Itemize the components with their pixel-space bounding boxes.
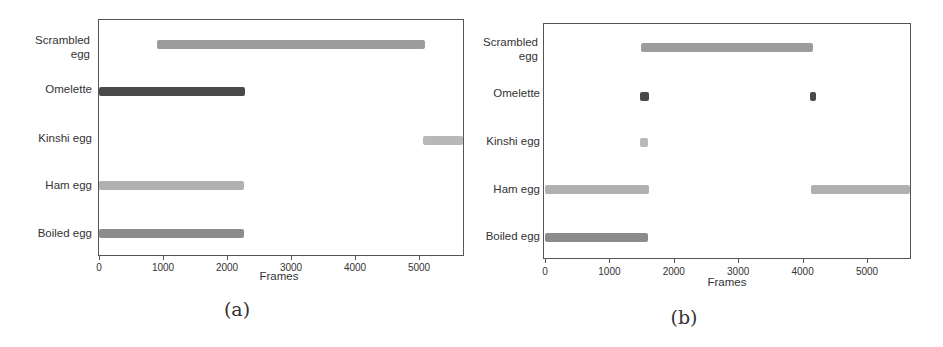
plot-area-b <box>543 23 911 259</box>
bar-ham-egg <box>545 185 649 194</box>
bar-scrambled-egg <box>641 43 813 52</box>
x-tick-label: 4000 <box>791 266 813 277</box>
x-tick <box>867 259 868 263</box>
x-tick <box>609 259 610 263</box>
bar-kinshi-egg <box>640 138 648 147</box>
bar-omelette <box>640 92 648 101</box>
ylabel-scrambled-egg: Scrambledegg <box>483 35 538 63</box>
x-tick <box>545 259 546 263</box>
x-tick <box>674 259 675 263</box>
x-tick-label: 2000 <box>663 266 685 277</box>
ylabel-boiled-egg: Boiled egg <box>486 229 540 243</box>
caption-b: (b) <box>671 306 698 328</box>
ylabel-kinshi-egg: Kinshi egg <box>486 134 540 148</box>
bar-omelette <box>810 92 816 101</box>
x-tick-label: 5000 <box>856 266 878 277</box>
ylabel-omelette: Omelette <box>493 86 540 100</box>
x-tick <box>738 259 739 263</box>
bar-boiled-egg <box>545 233 648 242</box>
x-tick-label: 1000 <box>598 266 620 277</box>
chart-panel-b: Scrambledegg Omelette Kinshi egg Ham egg… <box>0 0 943 347</box>
x-tick-label: 0 <box>542 266 548 277</box>
ylabel-ham-egg: Ham egg <box>493 182 540 196</box>
x-axis-title-b: Frames <box>708 276 747 288</box>
x-tick <box>803 259 804 263</box>
bar-ham-egg <box>811 185 910 194</box>
